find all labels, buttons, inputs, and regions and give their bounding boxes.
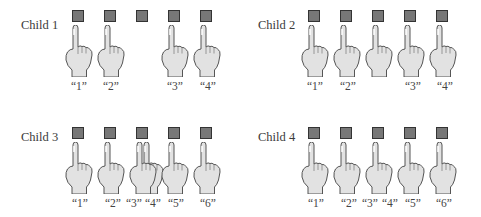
square-object: [104, 127, 116, 139]
object-5: [426, 10, 458, 110]
square-object: [136, 10, 148, 22]
count-label: “2”: [341, 197, 357, 209]
panel-child-2: Child 2 “1” “2” “3” “4”: [240, 0, 480, 108]
object-2: [330, 10, 362, 110]
square-object: [168, 127, 180, 139]
count-label: “1”: [307, 80, 323, 92]
count-label: “4”: [382, 197, 398, 209]
square-object: [340, 10, 352, 22]
square-object: [200, 127, 212, 139]
count-label: “3”: [362, 197, 378, 209]
pointing-hand-icon: [364, 25, 394, 77]
panel-child-4: Child 4 “1” “2” “3” “4” “5” “6”: [240, 110, 480, 217]
object-1: [298, 10, 330, 110]
count-label: “5”: [168, 197, 184, 209]
pointing-hand-icon: [364, 142, 394, 194]
pointing-hand-icon: [428, 25, 458, 77]
square-object: [404, 10, 416, 22]
pointing-hand-icon: [96, 25, 126, 77]
square-object: [104, 10, 116, 22]
pointing-hand-icon: [64, 25, 94, 77]
count-label: “3”: [126, 197, 142, 209]
pointing-hand-icon: [428, 142, 458, 194]
square-object: [436, 127, 448, 139]
square-object: [136, 127, 148, 139]
count-label: “2”: [105, 197, 121, 209]
child-label: Child 4: [258, 130, 295, 145]
object-4: [158, 10, 190, 110]
pointing-hand-icon: [160, 142, 190, 194]
panel-child-1: Child 1 “1” “2” “3” “4”: [0, 0, 240, 108]
count-label: “3”: [167, 80, 183, 92]
pointing-hand-icon: [192, 25, 222, 77]
child-label: Child 2: [258, 18, 295, 33]
pointing-hand-icon: [160, 25, 190, 77]
pointing-hand-icon: [64, 142, 94, 194]
child-label: Child 3: [21, 130, 58, 145]
panel-child-3: Child 3 “1” “2” “3” “4” “5” “6”: [0, 110, 240, 217]
pointing-hand-icon: [300, 25, 330, 77]
square-object: [436, 10, 448, 22]
pointing-hand-icon: [396, 25, 426, 77]
square-object: [72, 10, 84, 22]
object-3: [126, 10, 158, 110]
square-object: [72, 127, 84, 139]
count-label: “1”: [308, 197, 324, 209]
object-3: [362, 10, 394, 110]
object-5: [190, 10, 222, 110]
count-label: “6”: [200, 197, 216, 209]
square-object: [340, 127, 352, 139]
count-label: “1”: [72, 197, 88, 209]
square-object: [200, 10, 212, 22]
pointing-hand-icon: [332, 142, 362, 194]
count-label: “1”: [71, 80, 87, 92]
square-object: [308, 10, 320, 22]
pointing-hand-icon: [96, 142, 126, 194]
count-label: “5”: [405, 197, 421, 209]
square-object: [372, 10, 384, 22]
object-2: [94, 10, 126, 110]
object-1: [62, 10, 94, 110]
pointing-hand-icon: [332, 25, 362, 77]
count-label: “3”: [405, 80, 421, 92]
count-label: “4”: [200, 80, 216, 92]
square-object: [308, 127, 320, 139]
square-object: [404, 127, 416, 139]
pointing-hand-icon: [300, 142, 330, 194]
count-label: “4”: [437, 80, 453, 92]
pointing-hand-icon: [192, 142, 222, 194]
count-label: “6”: [436, 197, 452, 209]
object-4: [394, 10, 426, 110]
pointing-hand-icon: [128, 142, 158, 194]
count-label: “4”: [145, 197, 161, 209]
count-label: “2”: [340, 80, 356, 92]
count-label: “2”: [103, 80, 119, 92]
square-object: [168, 10, 180, 22]
child-label: Child 1: [21, 18, 58, 33]
square-object: [372, 127, 384, 139]
pointing-hand-icon: [396, 142, 426, 194]
